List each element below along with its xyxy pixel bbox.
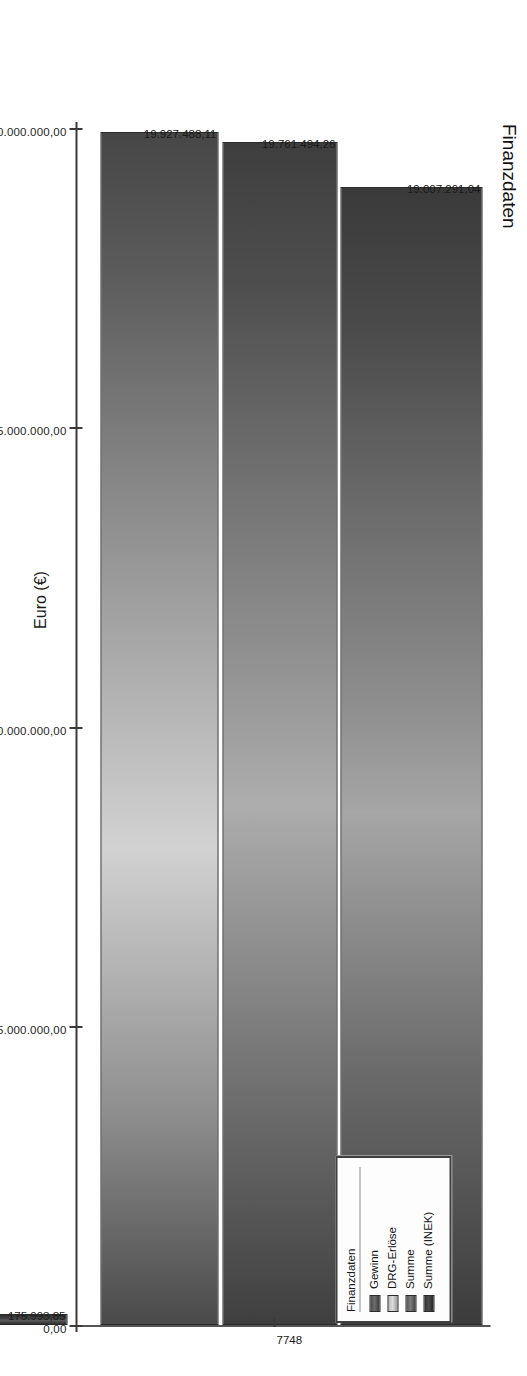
legend-item-label: Gewinn [368, 1250, 380, 1289]
legend-item-gewinn[interactable]: Gewinn [365, 1167, 383, 1312]
legend-item-summe-inek[interactable]: Summe (INEK) [419, 1167, 437, 1312]
value-axis-tick-label: 5.000.000,00 [0, 1024, 66, 1036]
bar-series-group: 19.007.291,0419.761.494,2619.927.488,111… [75, 122, 490, 1332]
bar-value-label: 19.927.488,11 [143, 128, 216, 140]
bar-value-label: 175.993,85 [7, 1310, 65, 1322]
legend-item-label: DRG-Erlöse [386, 1227, 398, 1289]
value-axis-tick-label: 10.000.000,00 [0, 725, 66, 737]
legend-inner: Finanzdaten GewinnDRG-ErlöseSummeSumme (… [337, 1158, 449, 1321]
legend-item-drg-erl-se[interactable]: DRG-Erlöse [383, 1167, 401, 1312]
legend-item-summe[interactable]: Summe [401, 1167, 419, 1312]
chart-title: Finanzdaten [497, 124, 519, 229]
bar-summe [222, 142, 337, 1325]
legend: Finanzdaten GewinnDRG-ErlöseSummeSumme (… [335, 1156, 451, 1323]
bar-summe-inek [340, 187, 482, 1325]
category-tick-label: 7748 [276, 1334, 302, 1346]
chart-figure: Finanzdaten 20.000.000,0015.000.000,0010… [0, 0, 527, 1376]
y-axis-title: Euro (€) [31, 571, 49, 629]
legend-item-label: Summe (INEK) [422, 1212, 434, 1289]
legend-swatch-icon [387, 1295, 398, 1312]
category-tick-mark [273, 1318, 275, 1327]
legend-swatch-icon [405, 1295, 416, 1312]
bar-drg-erl-se [100, 132, 218, 1325]
value-axis-tick-label: 20.000.000,00 [0, 126, 66, 138]
legend-swatch-icon [369, 1295, 380, 1312]
bar-value-label: 19.007.291,04 [406, 183, 480, 195]
legend-swatch-icon [423, 1295, 434, 1312]
legend-rows: GewinnDRG-ErlöseSummeSumme (INEK) [365, 1167, 437, 1312]
value-axis-tick-label: 15.000.000,00 [0, 425, 66, 437]
bar-value-label: 19.761.494,26 [261, 138, 335, 150]
rotated-figure-wrapper: Finanzdaten 20.000.000,0015.000.000,0010… [0, 0, 527, 1376]
legend-item-label: Summe [404, 1249, 416, 1289]
legend-title: Finanzdaten [344, 1167, 360, 1312]
plot-area: 20.000.000,0015.000.000,0010.000.000,005… [75, 122, 490, 1332]
